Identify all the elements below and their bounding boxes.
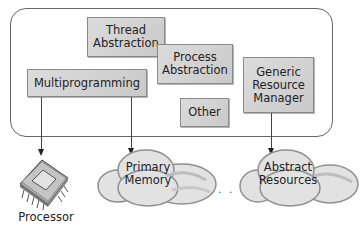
edge-multiprogramming-processor (41, 97, 42, 150)
other-box: Other (180, 98, 229, 127)
multiprogramming-label: Multiprogramming (34, 77, 140, 90)
abstract-resources-label: Abstract Resources (255, 161, 321, 187)
process-abstraction-line2: Abstraction (162, 64, 228, 77)
grm-line2: Resource (252, 79, 305, 92)
thread-abstraction-box: Thread Abstraction (87, 17, 165, 57)
arrowhead-processor (38, 149, 44, 156)
processor-chip-icon (16, 156, 76, 212)
processor-label: Processor (10, 211, 82, 224)
edge-grm-abstract-resources (271, 113, 272, 149)
grm-line1: Generic (252, 66, 305, 79)
process-abstraction-box: Process Abstraction (157, 44, 233, 84)
other-label: Other (188, 106, 221, 119)
abstract-resources-line2: Resources (255, 174, 321, 187)
multiprogramming-box: Multiprogramming (27, 69, 147, 97)
edge-multiprogramming-memory (131, 97, 132, 149)
generic-resource-manager-box: Generic Resource Manager (243, 57, 314, 113)
thread-abstraction-line2: Abstraction (93, 37, 159, 50)
primary-memory-label: Primary Memory (118, 161, 178, 187)
grm-line3: Manager (252, 92, 305, 105)
primary-memory-line2: Memory (118, 174, 178, 187)
